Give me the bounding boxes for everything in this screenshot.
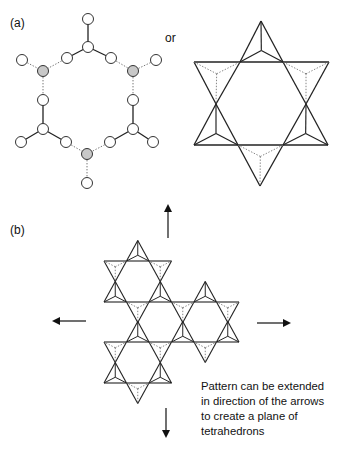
caption-line: tetrahedrons <box>201 424 324 439</box>
panel-a-label: (a) <box>10 16 25 30</box>
tetrahedral-star <box>194 21 329 186</box>
caption: Pattern can be extended in direction of … <box>201 379 324 439</box>
ball-and-stick-ring <box>16 14 162 189</box>
or-connector: or <box>165 31 176 45</box>
caption-line: to create a plane of <box>201 409 324 424</box>
panel-b-label: (b) <box>10 223 25 237</box>
caption-line: Pattern can be extended <box>201 379 324 394</box>
caption-line: in direction of the arrows <box>201 394 324 409</box>
